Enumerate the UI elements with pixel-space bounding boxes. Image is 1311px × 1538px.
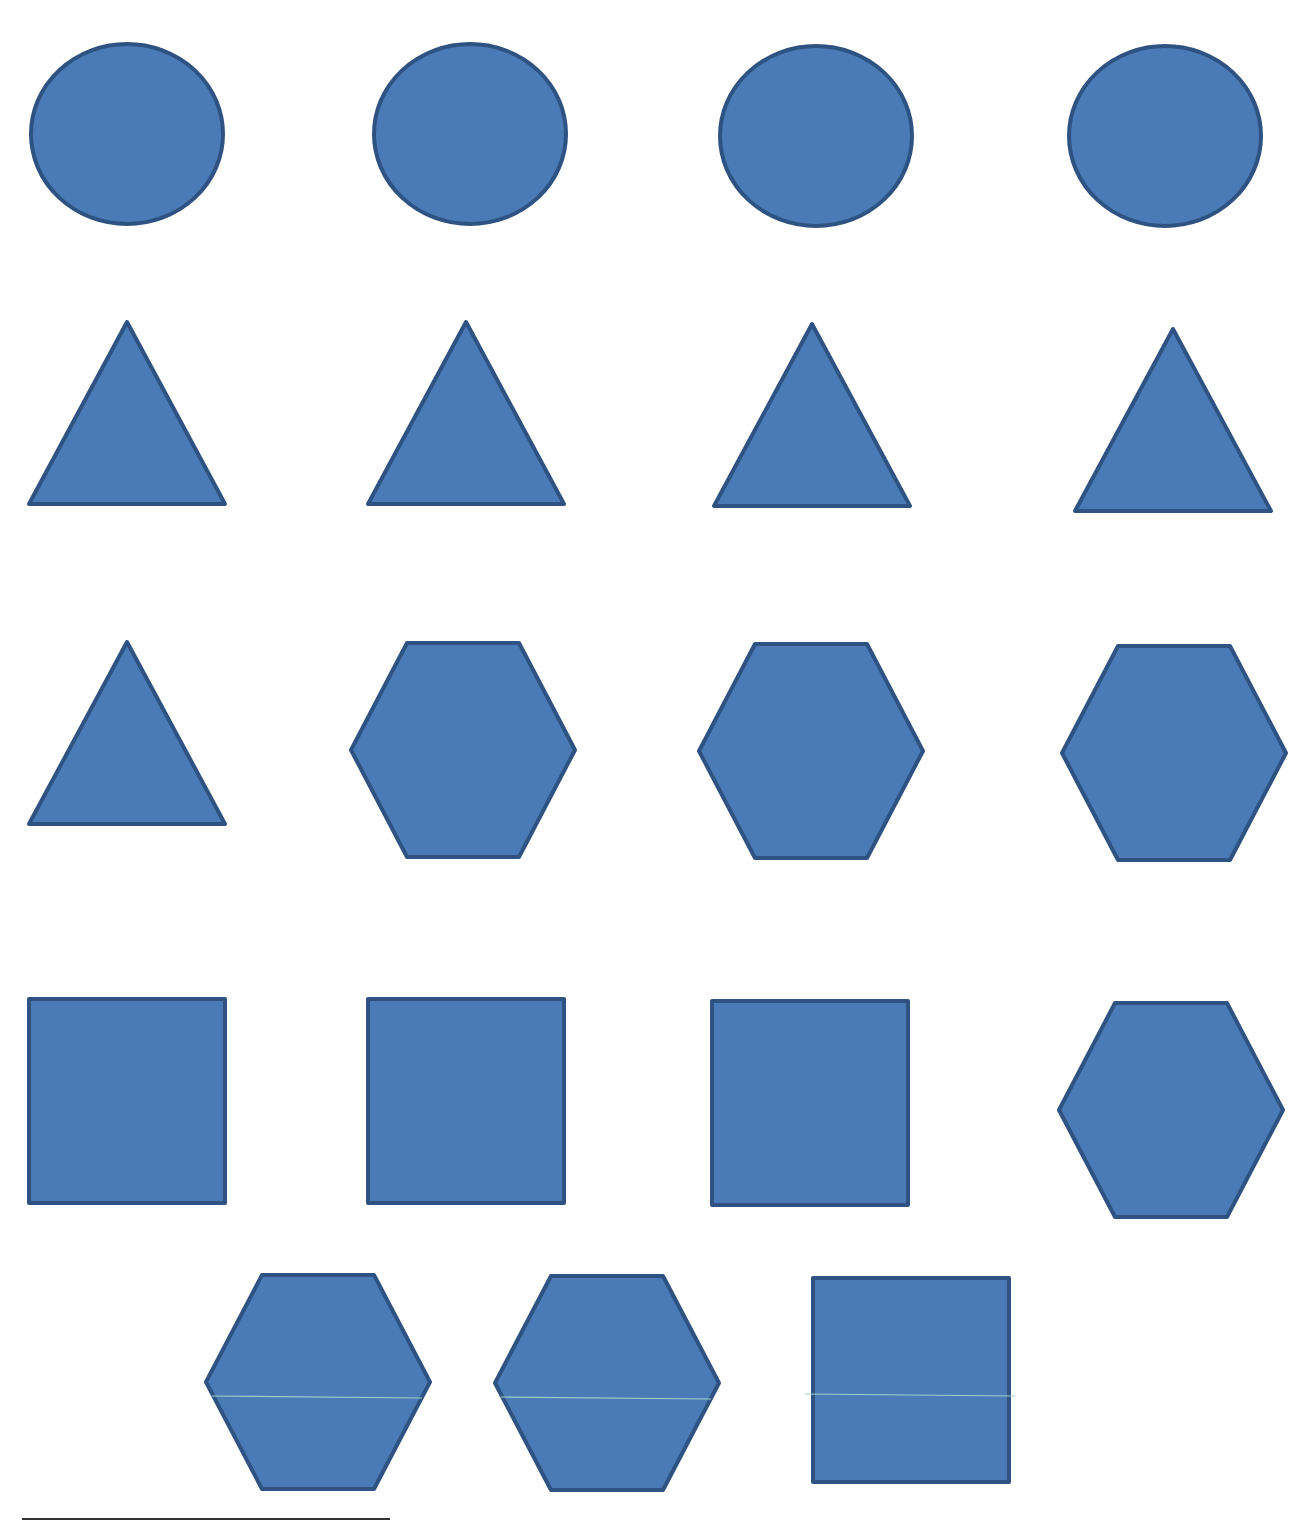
square-shape	[805, 1278, 1015, 1482]
circle-shape	[720, 46, 912, 226]
square	[368, 999, 564, 1203]
circle-shape	[1069, 46, 1261, 226]
circle	[720, 46, 912, 226]
square	[813, 1278, 1009, 1482]
hexagon	[699, 644, 923, 858]
circle	[31, 44, 223, 224]
square	[29, 999, 225, 1203]
shapes-canvas	[0, 0, 1311, 1538]
square-shape	[29, 999, 225, 1203]
hexagon-shape	[1062, 646, 1286, 860]
triangle-shape	[29, 642, 225, 824]
hexagon	[1062, 646, 1286, 860]
hexagon	[206, 1275, 430, 1489]
triangle-shape	[29, 322, 225, 504]
triangle	[1075, 329, 1271, 511]
hexagon-shape	[351, 643, 575, 857]
hexagon	[351, 643, 575, 857]
circle-shape	[31, 44, 223, 224]
circle	[1069, 46, 1261, 226]
circle-shape	[374, 44, 566, 224]
triangle	[714, 324, 910, 506]
footer-rule	[22, 1518, 390, 1520]
triangle	[29, 642, 225, 824]
hexagon-shape	[1059, 1003, 1283, 1217]
triangle-shape	[1075, 329, 1271, 511]
hexagon-shape	[699, 644, 923, 858]
square-shape	[712, 1001, 908, 1205]
circle	[374, 44, 566, 224]
triangle-shape	[368, 322, 564, 504]
hexagon-shape	[206, 1275, 430, 1489]
triangle	[368, 322, 564, 504]
square	[712, 1001, 908, 1205]
triangle-shape	[714, 324, 910, 506]
square-shape	[368, 999, 564, 1203]
triangle	[29, 322, 225, 504]
hexagon	[1059, 1003, 1283, 1217]
hexagon	[495, 1276, 719, 1490]
hexagon-shape	[495, 1276, 719, 1490]
